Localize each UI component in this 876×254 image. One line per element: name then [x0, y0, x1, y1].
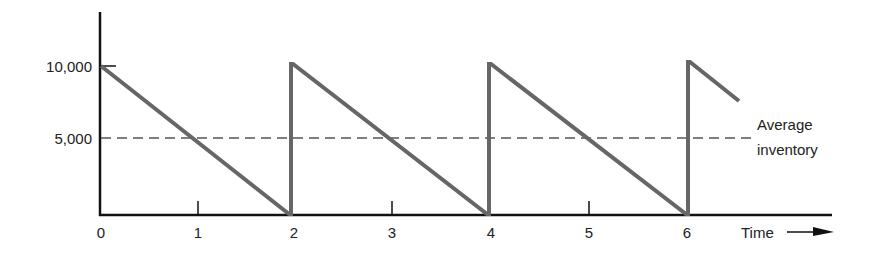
y-label-5000: 5,000 [54, 130, 92, 147]
y-label-10000: 10,000 [46, 58, 92, 75]
time-arrow-icon [813, 227, 834, 236]
x-label-2: 2 [290, 224, 298, 241]
inventory-chart: 10,000 5,000 0 1 2 3 4 5 6 Time Average … [0, 0, 876, 254]
x-label-3: 3 [388, 224, 396, 241]
x-label-0: 0 [97, 224, 105, 241]
average-label-line1: Average [757, 116, 813, 133]
average-label-line2: inventory [757, 141, 818, 158]
inventory-sawtooth [101, 62, 739, 214]
x-label-4: 4 [487, 224, 495, 241]
x-axis-title: Time [741, 224, 774, 241]
x-label-5: 5 [585, 224, 593, 241]
x-label-1: 1 [194, 224, 202, 241]
x-label-6: 6 [683, 224, 691, 241]
